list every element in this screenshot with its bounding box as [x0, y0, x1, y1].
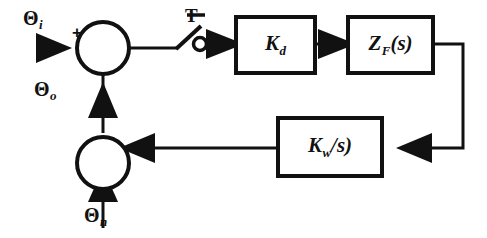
theta-noise-subscript: n — [100, 214, 107, 229]
label-theta-noise: Θn — [84, 205, 107, 228]
block-diagram-canvas: Θi Θo Θn + T Kd ZF(s) Kw/s) — [0, 0, 487, 238]
label-sum-positive-sign: + — [72, 24, 82, 41]
arrowhead-kw-input — [396, 133, 432, 163]
summing-junction-input — [77, 22, 129, 74]
label-sampler-period: T — [185, 6, 198, 25]
block-kw[interactable] — [278, 118, 382, 176]
arrowhead-input — [36, 33, 72, 63]
block-kd[interactable] — [236, 17, 315, 73]
arrowhead-sum1-lower-input — [88, 82, 118, 118]
sampler-contact-icon[interactable] — [194, 38, 207, 51]
theta-noise-symbol: Θ — [84, 204, 100, 226]
theta-output-subscript: o — [50, 88, 57, 103]
theta-input-subscript: i — [39, 17, 43, 32]
theta-output-symbol: Θ — [34, 78, 50, 100]
label-theta-input: Θi — [23, 8, 43, 31]
label-theta-output: Θo — [34, 79, 57, 102]
summing-junction-noise — [77, 137, 129, 189]
theta-input-symbol: Θ — [23, 7, 39, 29]
block-zf[interactable] — [348, 17, 433, 73]
